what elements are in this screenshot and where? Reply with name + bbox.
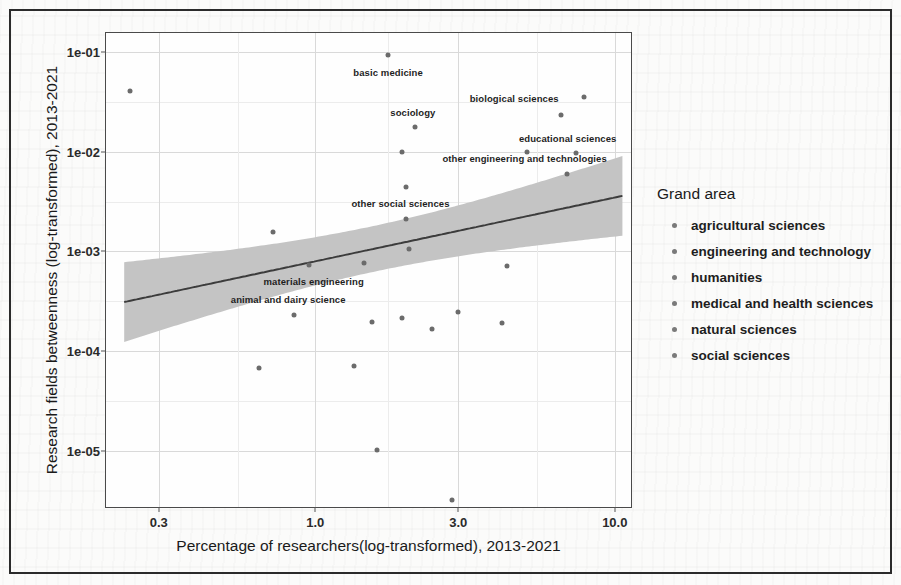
regression-line <box>106 33 631 507</box>
x-axis-tick-label: 10.0 <box>602 515 627 530</box>
trend-line-shape <box>106 33 633 509</box>
scatter-point <box>456 310 461 315</box>
plot-panel: 1e-011e-021e-031e-041e-050.31.03.010.0 b… <box>105 32 632 508</box>
scatter-point <box>352 363 357 368</box>
legend-item-label: agricultural sciences <box>691 218 825 233</box>
scatter-point <box>370 320 375 325</box>
scatter-point <box>500 321 505 326</box>
x-axis-tick-label: 0.3 <box>150 515 168 530</box>
y-axis-tick-mark <box>101 450 106 451</box>
scatter-point <box>292 313 297 318</box>
y-axis-tick-label: 1e-01 <box>67 45 100 60</box>
scatter-point <box>127 88 132 93</box>
legend-dot-icon <box>672 249 677 254</box>
scatter-point <box>306 263 311 268</box>
legend-item-label: medical and health sciences <box>691 296 873 311</box>
legend-key <box>657 327 691 332</box>
legend-dot-icon <box>672 301 677 306</box>
legend: Grand area agricultural sciencesengineer… <box>657 185 887 368</box>
legend-item-label: social sciences <box>691 348 790 363</box>
scatter-point <box>582 95 587 100</box>
legend-key <box>657 353 691 358</box>
legend-title: Grand area <box>657 185 887 203</box>
scatter-point <box>558 112 563 117</box>
scatter-point <box>270 230 275 235</box>
y-axis-tick-label: 1e-03 <box>67 244 100 259</box>
legend-item-label: humanities <box>691 270 762 285</box>
legend-items: agricultural sciencesengineering and tec… <box>657 212 887 368</box>
legend-item[interactable]: agricultural sciences <box>657 212 887 238</box>
figure-container: Research fields betweenness (log-transfo… <box>9 9 892 574</box>
legend-dot-icon <box>672 327 677 332</box>
scatter-point <box>412 125 417 130</box>
scatter-point-label: biological sciences <box>470 93 559 104</box>
scatter-point-label: animal and dairy science <box>231 294 346 305</box>
scatter-point <box>400 315 405 320</box>
x-axis-tick-label: 1.0 <box>306 515 324 530</box>
scatter-point <box>400 149 405 154</box>
scatter-point-label: educational sciences <box>519 133 617 144</box>
x-axis-tick-mark <box>315 507 316 512</box>
y-axis-tick-mark <box>101 351 106 352</box>
y-axis-tick-mark <box>101 151 106 152</box>
legend-key <box>657 301 691 306</box>
legend-item-label: natural sciences <box>691 322 797 337</box>
scatter-point-label: other engineering and technologies <box>442 152 606 163</box>
legend-item[interactable]: social sciences <box>657 342 887 368</box>
scatter-point <box>504 263 509 268</box>
x-axis-tick-mark <box>158 507 159 512</box>
x-axis-tick-mark <box>614 507 615 512</box>
legend-item[interactable]: medical and health sciences <box>657 290 887 316</box>
scatter-point <box>403 217 408 222</box>
x-axis-title: Percentage of researchers(log-transforme… <box>105 537 632 555</box>
scatter-point <box>406 247 411 252</box>
scanned-page: Research fields betweenness (log-transfo… <box>0 0 901 585</box>
scatter-point-label: materials engineering <box>264 276 364 287</box>
legend-key <box>657 223 691 228</box>
scatter-point-label: basic medicine <box>353 67 423 78</box>
y-axis-tick-mark <box>101 251 106 252</box>
legend-item[interactable]: natural sciences <box>657 316 887 342</box>
scatter-point-label: sociology <box>390 107 435 118</box>
y-axis-tick-label: 1e-02 <box>67 144 100 159</box>
scatter-point-label: other social sciences <box>351 198 449 209</box>
scatter-point <box>361 261 366 266</box>
scatter-point <box>403 185 408 190</box>
legend-item[interactable]: humanities <box>657 264 887 290</box>
legend-key <box>657 275 691 280</box>
y-axis-tick-label: 1e-04 <box>67 344 100 359</box>
legend-dot-icon <box>672 275 677 280</box>
scatter-point <box>429 327 434 332</box>
scatter-point <box>386 53 391 58</box>
x-axis-tick-label: 3.0 <box>449 515 467 530</box>
y-axis-title-wrapper: Research fields betweenness (log-transfo… <box>23 9 53 509</box>
legend-item[interactable]: engineering and technology <box>657 238 887 264</box>
scatter-point <box>257 365 262 370</box>
y-axis-tick-mark <box>101 52 106 53</box>
y-axis-title: Research fields betweenness (log-transfo… <box>43 35 61 505</box>
y-axis-tick-label: 1e-05 <box>67 443 100 458</box>
scatter-point <box>449 498 454 503</box>
legend-item-label: engineering and technology <box>691 244 871 259</box>
scatter-point <box>564 171 569 176</box>
legend-key <box>657 249 691 254</box>
legend-dot-icon <box>672 223 677 228</box>
legend-dot-icon <box>672 353 677 358</box>
x-axis-tick-mark <box>458 507 459 512</box>
scatter-point <box>374 447 379 452</box>
